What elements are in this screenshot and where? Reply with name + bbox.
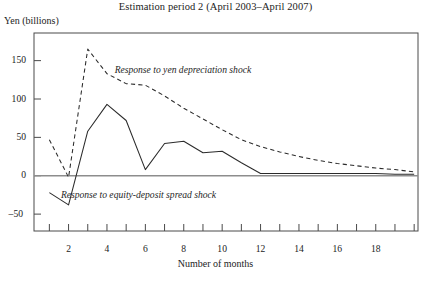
x-axis-ticks <box>49 224 414 231</box>
series-line-yen-depreciation <box>49 49 414 177</box>
y-axis-ticks <box>34 61 41 214</box>
chart-figure: Estimation period 2 (April 2003–April 20… <box>0 0 431 282</box>
series-line-equity-deposit-spread <box>49 104 414 205</box>
plot-area <box>0 0 431 282</box>
